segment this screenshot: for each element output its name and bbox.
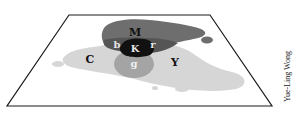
label-y: Y [170,56,179,69]
small-blob [175,86,189,92]
label-c: C [86,53,95,66]
artist-credit: Yue-Ling Wong [280,42,294,110]
label-r: r [150,39,156,50]
label-k: K [131,43,140,54]
small-blob [201,37,213,44]
small-blob [152,86,158,90]
label-g: g [131,58,138,69]
label-m: M [129,26,141,39]
artist-credit-text: Yue-Ling Wong [283,51,292,102]
label-b: b [114,39,121,50]
small-blob [52,61,64,67]
color-overlap-diagram: M b K r C g Y [0,0,297,113]
